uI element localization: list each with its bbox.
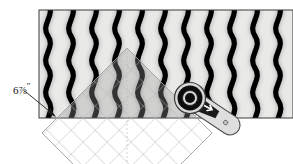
measurement-fraction: ⅞ [19,84,27,96]
cutter-hub-center [185,93,195,103]
cutting-diagram-illustration [0,0,293,164]
measurement-label: 6⅞″ [13,80,31,96]
measurement-unit: ″ [27,81,31,91]
diagram-canvas: 6⅞″ [0,0,293,164]
